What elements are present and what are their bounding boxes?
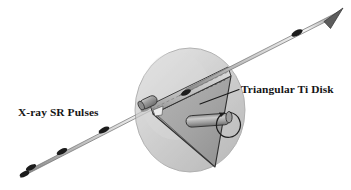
disk-label: Triangular Ti Disk — [241, 83, 334, 95]
beam-label: X-ray SR Pulses — [18, 106, 99, 118]
diagram-canvas: X-ray SR Pulses Triangular Ti Disk — [0, 0, 351, 190]
figure-container: X-ray SR Pulses Triangular Ti Disk — [0, 0, 351, 190]
